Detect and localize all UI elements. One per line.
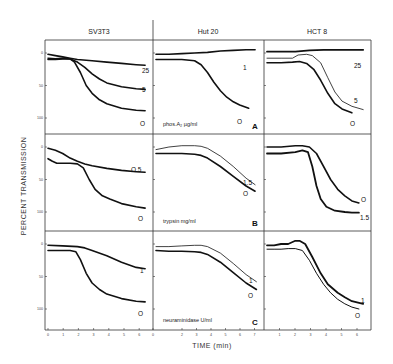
x-tick-label: 7 xyxy=(254,333,256,337)
curve-1.5 xyxy=(156,146,255,185)
y-axis-title: PERCENT TRANSMISSION xyxy=(20,137,27,235)
curve-25 xyxy=(267,50,363,52)
x-tick-label: 2 xyxy=(181,333,183,337)
curve-0 xyxy=(267,62,352,113)
x-tick-label: 5 xyxy=(123,333,125,337)
chart-panel-c-sv3t3: 0501001O xyxy=(37,242,145,317)
y-tick-label: 0 xyxy=(41,145,43,149)
panel-letter: A xyxy=(252,122,258,131)
curve-1 xyxy=(156,50,255,55)
y-tick-label: 100 xyxy=(37,307,43,311)
curve-label: 1.5 xyxy=(243,179,252,186)
y-tick-label: 100 xyxy=(37,210,43,214)
curve-label: 1 xyxy=(249,277,253,284)
curve-25 xyxy=(48,54,145,65)
x-tick-label: 4 xyxy=(210,333,212,337)
figure-canvas: SV3T3 Hut 20 HCT 8 PERCENT TRANSMISSION … xyxy=(0,0,393,364)
chart-panel-b-sv3t3: 050100O.5O xyxy=(37,145,145,222)
curve-label: 1 xyxy=(140,267,144,274)
curve-1 xyxy=(267,241,363,304)
x-tick-label: 1 xyxy=(279,333,281,337)
curve-label: 1 xyxy=(243,64,247,71)
chart-panel-b-hut20: 1.5Otrypsin mg/mlB xyxy=(153,146,258,228)
curve-0 xyxy=(48,58,145,111)
y-tick-label: 0 xyxy=(41,242,43,246)
x-tick-label: 0 xyxy=(152,333,154,337)
x-axis-title: TIME (min) xyxy=(192,342,232,350)
chart-panel-c-hut20: 1Oneuraminidase U/mlC xyxy=(153,244,258,327)
x-tick-label: 4 xyxy=(325,333,327,337)
curve-label: 5 xyxy=(354,97,358,104)
panel-letter: B xyxy=(252,219,258,228)
chart-panel-b-hct8: O1.5 xyxy=(264,146,369,221)
y-tick-label: 50 xyxy=(39,178,43,182)
x-tick-label: 3 xyxy=(196,333,198,337)
x-tick-label: 6 xyxy=(138,333,140,337)
column-title-sv3t3: SV3T3 xyxy=(88,28,110,35)
x-axis-ticks: 01234560234567123456 xyxy=(47,328,358,337)
chart-panel-a-hct8: 255O xyxy=(264,50,363,127)
curve-label: O xyxy=(248,292,253,299)
curve-label: O xyxy=(237,118,242,125)
curve-label: O xyxy=(138,215,143,222)
x-tick-label: 6 xyxy=(239,333,241,337)
x-tick-label: 2 xyxy=(77,333,79,337)
curve-label: O xyxy=(361,196,366,203)
curve-label: 25 xyxy=(354,62,362,69)
curve-label: O xyxy=(138,310,143,317)
curve-label: O xyxy=(243,190,248,197)
y-tick-label: 100 xyxy=(37,116,43,120)
x-tick-label: 1 xyxy=(62,333,64,337)
curve-label: O.5 xyxy=(131,166,142,173)
curve-0 xyxy=(156,60,249,109)
y-tick-label: 0 xyxy=(41,51,43,55)
chart-panel-a-hut20: 1Ophos.A₂ µg/mlA xyxy=(153,50,258,131)
curve-label: O xyxy=(355,312,360,319)
chart-panel-a-sv3t3: 050100255O xyxy=(37,51,150,127)
curve-0 xyxy=(48,251,145,302)
curve-label: 1 xyxy=(361,297,365,304)
column-title-hut20: Hut 20 xyxy=(198,28,219,35)
enzyme-label: neuraminidase U/ml xyxy=(163,317,212,323)
y-tick-label: 50 xyxy=(39,275,43,279)
curve-label: O xyxy=(350,120,355,127)
x-tick-label: 6 xyxy=(356,333,358,337)
curve-label: 5 xyxy=(142,86,146,93)
panels-layer: 050100255O1Ophos.A₂ µg/mlA255O050100O.5O… xyxy=(37,50,369,327)
x-tick-label: 4 xyxy=(108,333,110,337)
chart-panel-c-hct8: 1O xyxy=(264,241,365,319)
curve-1.5 xyxy=(267,150,359,212)
curve-label: 25 xyxy=(142,67,150,74)
x-tick-label: 3 xyxy=(310,333,312,337)
column-title-hct8: HCT 8 xyxy=(307,28,327,35)
curve-label: O xyxy=(140,120,145,127)
x-tick-label: 0 xyxy=(47,333,49,337)
enzyme-label: trypsin mg/ml xyxy=(163,218,196,224)
x-tick-label: 2 xyxy=(294,333,296,337)
curve-1 xyxy=(48,245,145,268)
enzyme-label: phos.A₂ µg/ml xyxy=(163,121,197,127)
x-tick-label: 5 xyxy=(341,333,343,337)
x-tick-label: 3 xyxy=(93,333,95,337)
y-tick-label: 50 xyxy=(39,84,43,88)
curve-label: 1.5 xyxy=(360,214,369,221)
x-tick-label: 5 xyxy=(225,333,227,337)
panel-letter: C xyxy=(252,318,258,327)
